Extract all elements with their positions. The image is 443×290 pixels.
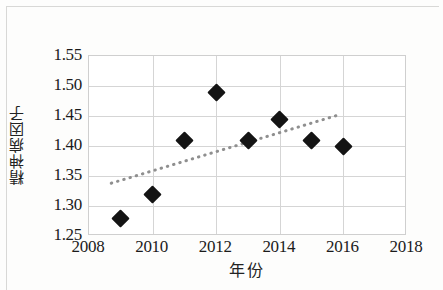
x-tick-label: 2012 bbox=[183, 238, 247, 256]
y-tick-label: 1.55 bbox=[30, 46, 82, 63]
plot-area bbox=[88, 55, 406, 235]
scatter-chart-figure: 精神病因子 1.251.301.351.401.451.501.55 20082… bbox=[0, 0, 443, 290]
x-tick-label: 2008 bbox=[56, 238, 120, 256]
x-tick-label: 2010 bbox=[120, 238, 184, 256]
x-tick-label: 2018 bbox=[374, 238, 438, 256]
y-tick-label: 1.50 bbox=[30, 76, 82, 93]
y-tick-label: 1.45 bbox=[30, 106, 82, 123]
y-tick-label: 1.35 bbox=[30, 166, 82, 183]
x-axis-title: 年份 bbox=[88, 262, 406, 279]
y-axis-title: 精神病因子 bbox=[6, 58, 28, 233]
x-tick-label: 2016 bbox=[310, 238, 374, 256]
y-tick-label: 1.30 bbox=[30, 196, 82, 213]
x-tick-label: 2014 bbox=[247, 238, 311, 256]
y-tick-label: 1.40 bbox=[30, 136, 82, 153]
